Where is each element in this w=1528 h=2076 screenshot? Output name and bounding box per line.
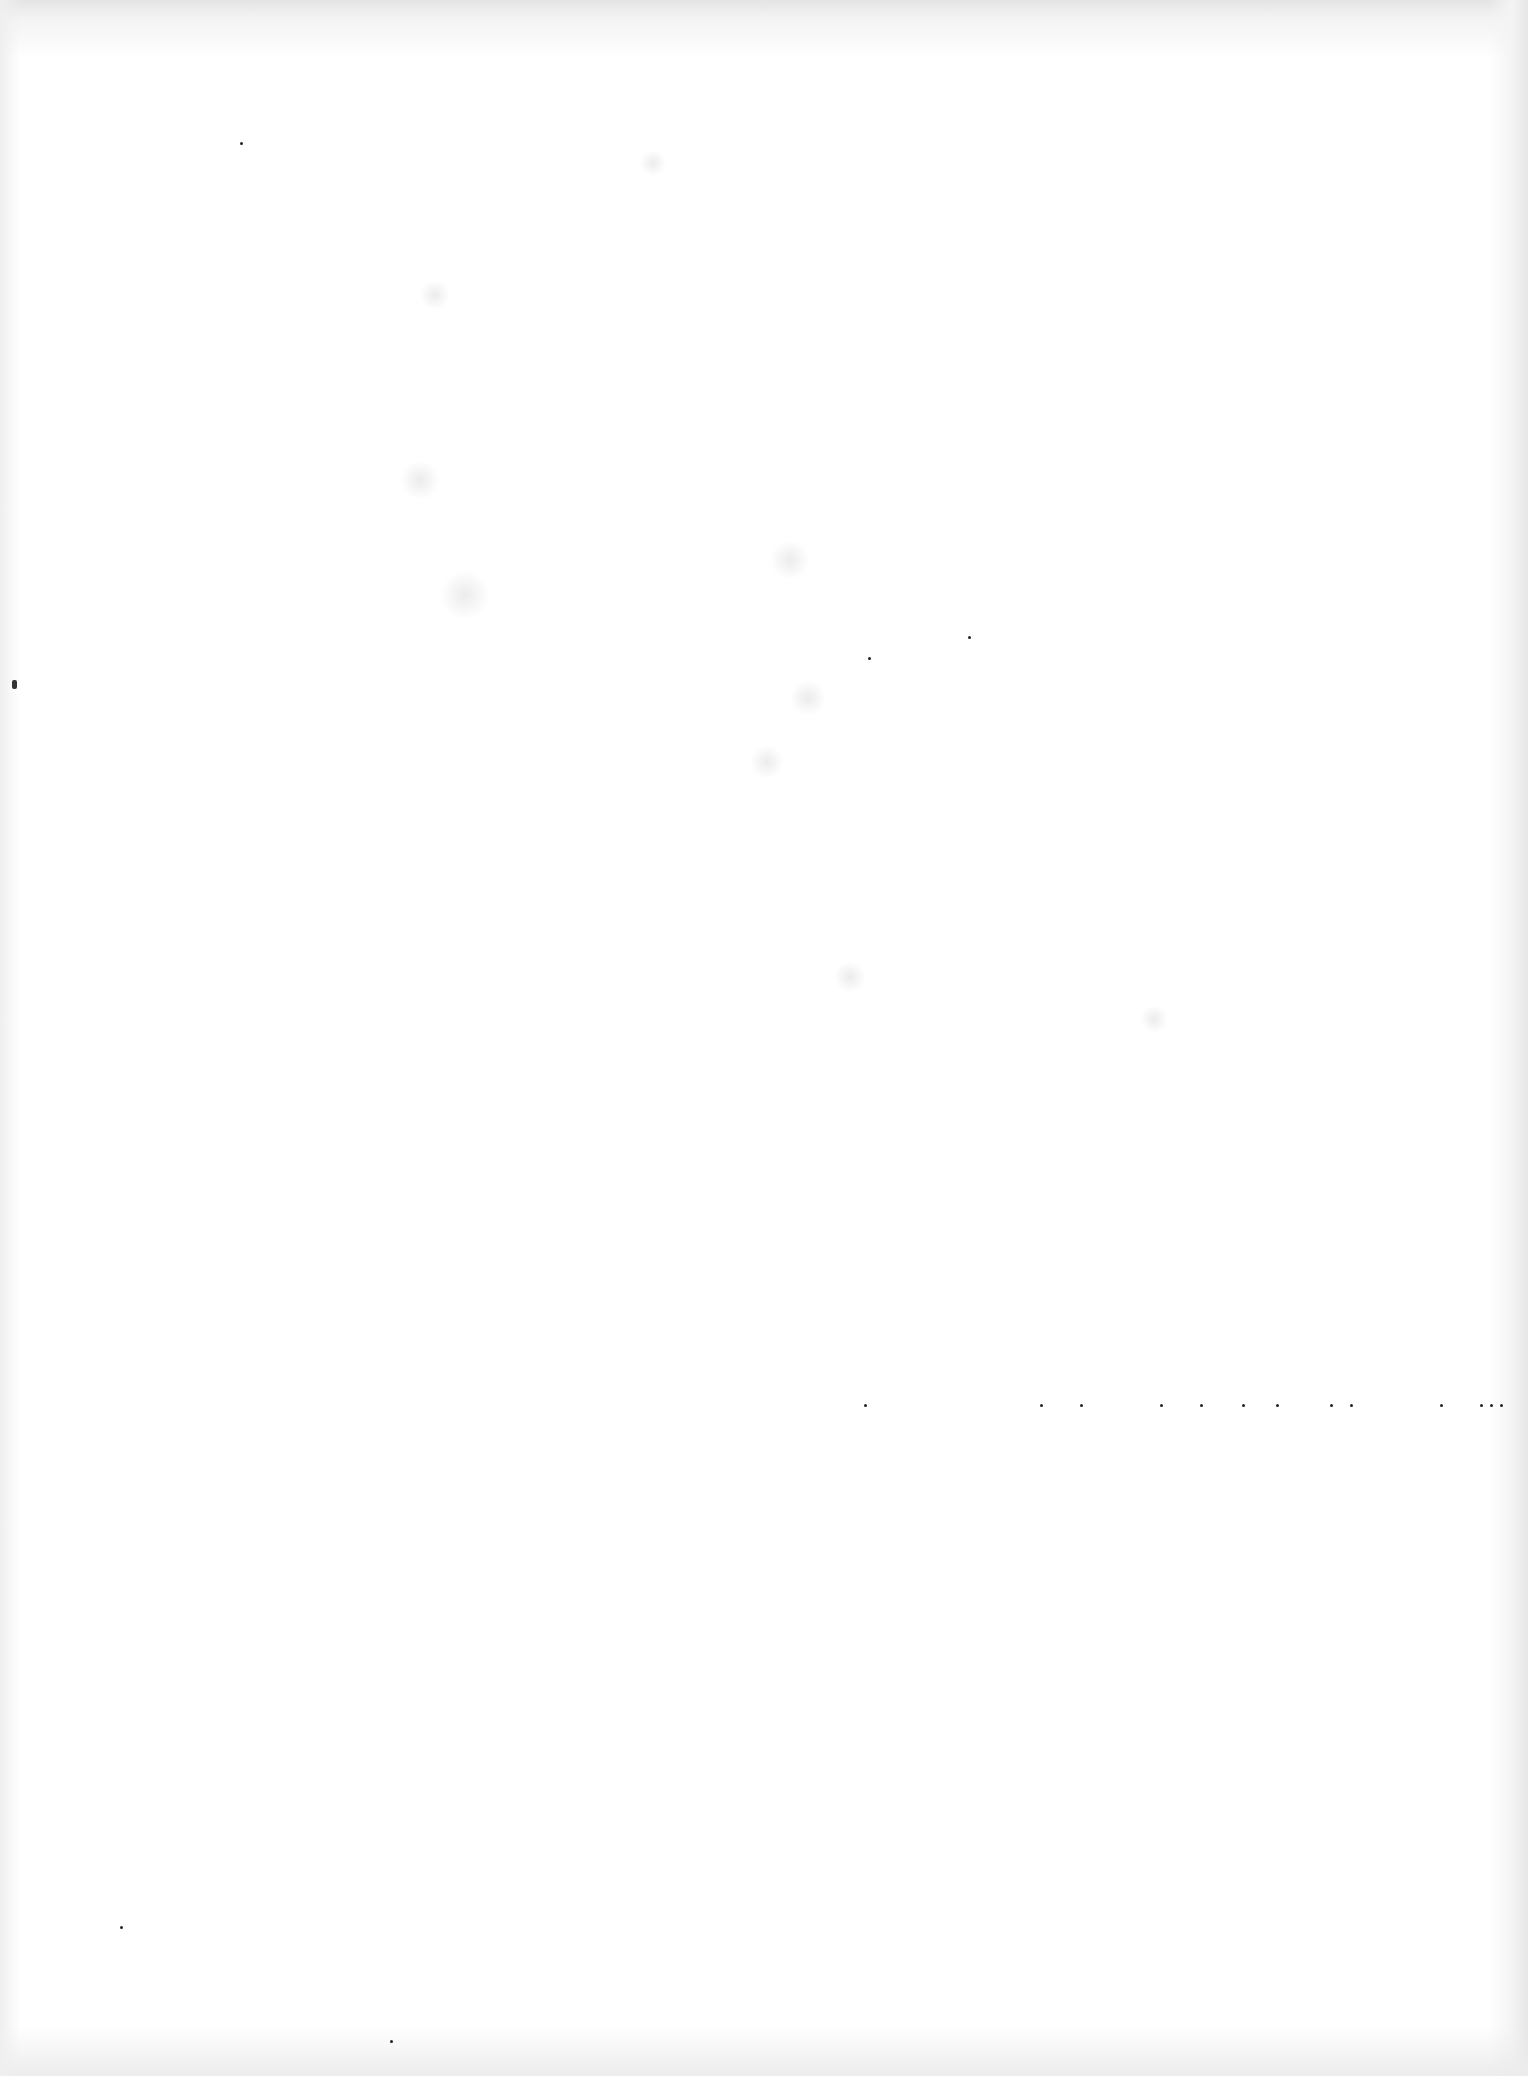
bleed-through-mark (770, 540, 810, 580)
speck-row (860, 1404, 1500, 1412)
speck (968, 636, 971, 639)
speck (1500, 1404, 1503, 1407)
speck (1440, 1404, 1443, 1407)
bleed-through-mark (400, 460, 440, 500)
speck (1080, 1404, 1083, 1407)
scan-edge-right (1488, 0, 1528, 2076)
speck (864, 1404, 867, 1407)
speck (120, 1926, 123, 1929)
scan-edge-top (0, 0, 1528, 60)
bleed-through-mark (790, 680, 826, 716)
speck (1330, 1404, 1333, 1407)
speck (1480, 1404, 1483, 1407)
bleed-through-mark (640, 150, 666, 176)
blank-page (0, 0, 1528, 2076)
bleed-through-mark (835, 960, 865, 994)
speck (1490, 1404, 1493, 1407)
speck (1350, 1404, 1353, 1407)
scan-edge-mark (12, 680, 17, 689)
speck (868, 657, 871, 660)
speck (1160, 1404, 1163, 1407)
scan-edge-left (0, 0, 20, 2076)
speck (1040, 1404, 1043, 1407)
speck (240, 142, 243, 145)
speck (1242, 1404, 1245, 1407)
bleed-through-mark (750, 745, 784, 779)
speck (1200, 1404, 1203, 1407)
speck (390, 2040, 393, 2043)
bleed-through-mark (440, 570, 490, 620)
bleed-through-mark (1140, 1005, 1168, 1033)
scan-edge-bottom (0, 2026, 1528, 2076)
bleed-through-mark (420, 280, 450, 310)
speck (1276, 1404, 1279, 1407)
